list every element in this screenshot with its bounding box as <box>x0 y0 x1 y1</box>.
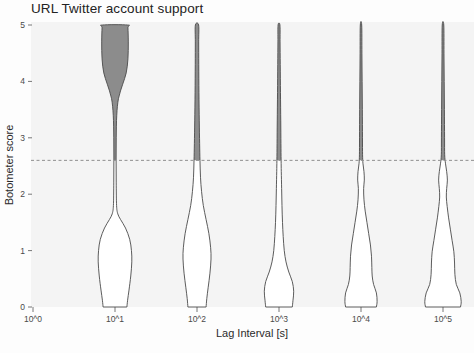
x-axis-title: Lag Interval [s] <box>216 327 288 339</box>
x-axis-ticks: 10^010^110^210^310^410^5 <box>24 307 452 324</box>
x-tick-label: 10^3 <box>270 314 288 324</box>
y-tick-label: 2 <box>20 189 25 199</box>
y-axis-ticks: 012345 <box>20 20 32 312</box>
y-tick-label: 0 <box>20 302 25 312</box>
y-tick-label: 4 <box>20 76 25 86</box>
chart-page: URL Twitter account support 012345 10^01… <box>0 0 474 353</box>
x-tick-label: 10^4 <box>352 314 370 324</box>
x-tick-label: 10^2 <box>188 314 206 324</box>
plot-panel-background <box>31 22 474 307</box>
y-axis-title: Botometer score <box>3 125 15 206</box>
y-tick-label: 1 <box>20 246 25 256</box>
violin-plot: 012345 10^010^110^210^310^410^5 Lag Inte… <box>0 0 474 353</box>
x-tick-label: 10^0 <box>24 314 42 324</box>
y-tick-label: 3 <box>20 133 25 143</box>
x-tick-label: 10^1 <box>106 314 124 324</box>
x-tick-label: 10^5 <box>434 314 452 324</box>
y-tick-label: 5 <box>20 20 25 30</box>
